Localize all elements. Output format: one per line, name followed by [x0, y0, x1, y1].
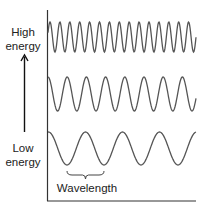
low-energy-wave [48, 132, 196, 165]
medium-energy-wave [48, 77, 196, 111]
wavelength-brace [67, 171, 104, 179]
energy-wavelength-diagram: High energy Low energy Wavelength [0, 0, 208, 211]
high-label: High [11, 26, 35, 38]
low-energy-label: energy [5, 156, 40, 168]
high-energy-label: energy [5, 40, 40, 52]
wavelength-label: Wavelength [57, 182, 117, 194]
high-energy-wave [48, 22, 196, 52]
low-label: Low [12, 142, 34, 154]
energy-arrow-icon [21, 55, 28, 132]
